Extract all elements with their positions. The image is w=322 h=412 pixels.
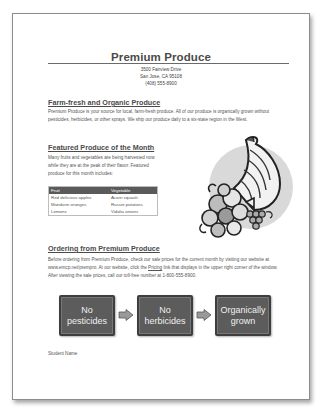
flow-box-no-herbicides: No herbicides: [137, 295, 193, 336]
flow-box-line: No: [67, 305, 107, 316]
title-divider: [48, 63, 289, 64]
flow-box-line: herbicides: [144, 316, 185, 327]
flow-box-organically-grown: Organically grown: [215, 295, 271, 336]
flow-box-line: grown: [220, 316, 265, 327]
flow-box-line: No: [144, 305, 185, 316]
document-page: Premium Produce 3500 Fairview Drive San …: [12, 13, 310, 400]
paragraph-featured-produce: Many fruits and vegetables are being har…: [48, 154, 166, 177]
produce-table: Fruit Vegetable Red delicious apples Aco…: [48, 186, 158, 216]
heading-ordering: Ordering from Premium Produce: [48, 244, 160, 253]
table-cell: Russet potatoes: [109, 201, 158, 208]
table-cell: Acorn squash: [109, 194, 158, 201]
table-cell: Red delicious apples: [49, 194, 109, 201]
arrow-right-icon: [118, 309, 134, 321]
flow-box-line: Organically: [220, 305, 265, 316]
heading-farm-fresh: Farm-fresh and Organic Produce: [48, 98, 160, 107]
address-city: San Jose, CA 95108: [13, 73, 309, 80]
address-block: 3500 Fairview Drive San Jose, CA 95108 (…: [13, 66, 309, 87]
table-header-fruit: Fruit: [49, 187, 109, 195]
paragraph-farm-fresh: Premium Produce is your source for local…: [48, 108, 281, 124]
table-row: Mandarin oranges Russet potatoes: [49, 201, 158, 208]
flow-box-no-pesticides: No pesticides: [59, 295, 115, 336]
table-header-row: Fruit Vegetable: [49, 187, 158, 195]
table-row: Lemons Vidalia onions: [49, 208, 158, 215]
table-row: Red delicious apples Acorn squash: [49, 194, 158, 201]
address-street: 3500 Fairview Drive: [13, 66, 309, 73]
document-title: Premium Produce: [13, 51, 309, 63]
table-cell: Lemons: [49, 208, 109, 215]
paragraph-ordering: Before ordering from Premium Produce, ch…: [48, 256, 281, 279]
pricing-link[interactable]: Pricing: [148, 265, 162, 270]
cornucopia-image: [188, 132, 300, 242]
heading-featured-produce: Featured Produce of the Month: [48, 143, 154, 152]
student-name: Student Name: [48, 351, 77, 356]
table-cell: Mandarin oranges: [49, 201, 109, 208]
flow-box-line: pesticides: [67, 316, 107, 327]
table-cell: Vidalia onions: [109, 208, 158, 215]
arrow-right-icon: [196, 309, 212, 321]
table-header-vegetable: Vegetable: [109, 187, 158, 195]
process-diagram: No pesticides No herbicides Organically …: [59, 295, 269, 339]
address-phone: (408) 555-8900: [13, 80, 309, 87]
